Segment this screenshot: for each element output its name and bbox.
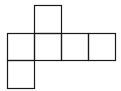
face-middle-4	[89, 34, 116, 61]
face-top	[35, 6, 62, 34]
face-bottom	[8, 61, 35, 89]
face-middle-1	[8, 34, 35, 61]
cube-net-diagram	[0, 0, 121, 91]
face-middle-2	[35, 34, 62, 61]
face-middle-3	[62, 34, 89, 61]
